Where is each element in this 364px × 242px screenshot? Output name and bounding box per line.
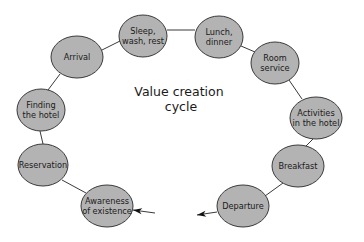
node-label-line: Departure: [222, 201, 264, 211]
node-breakfast: Breakfast: [272, 145, 324, 187]
node-label: Breakfast: [279, 161, 319, 171]
connector-activities-to-breakfast: [306, 139, 313, 146]
diagram-title-line-2: cycle: [165, 99, 198, 114]
node-label-line: in the hotel: [293, 118, 340, 128]
node-label: Reservation: [19, 160, 68, 170]
node-label-line: wash, rest: [122, 36, 165, 46]
node-label-line: Sleep,: [130, 26, 155, 36]
node-label: Awarenessof existence: [82, 196, 132, 216]
diagram-title: Value creation cycle: [134, 84, 227, 114]
node-label-line: Awareness: [85, 196, 129, 206]
connector-breakfast-to-departure: [265, 183, 283, 196]
node-label-line: Activities: [297, 108, 334, 118]
arrows-layer: [133, 208, 217, 216]
connector-lunch-to-room-service: [241, 46, 255, 52]
node-arrival: Arrival: [51, 36, 103, 78]
node-departure: Departure: [217, 185, 269, 227]
value-creation-cycle-diagram: Sleep,wash, restLunch,dinnerArrivalRooms…: [0, 0, 364, 242]
connector-finding-hotel-to-reservation: [40, 131, 43, 144]
node-label: Lunch,dinner: [205, 27, 232, 47]
node-label-line: Arrival: [64, 52, 91, 62]
node-label: Roomservice: [260, 53, 289, 73]
node-label: Findingthe hotel: [23, 100, 60, 120]
node-label-line: Finding: [26, 100, 55, 110]
node-label-line: Breakfast: [279, 161, 319, 171]
connector-reservation-to-awareness: [62, 180, 86, 193]
node-lunch: Lunch,dinner: [195, 16, 243, 58]
node-label: Activitiesin the hotel: [293, 108, 340, 128]
node-room-service: Roomservice: [251, 42, 299, 84]
node-activities: Activitiesin the hotel: [290, 97, 342, 139]
node-label-line: service: [260, 63, 289, 73]
arrow-into-awareness: [133, 208, 155, 214]
connector-arrival-to-finding-hotel: [48, 74, 60, 90]
node-awareness: Awarenessof existence: [81, 185, 133, 227]
node-finding-hotel: Findingthe hotel: [17, 89, 65, 131]
node-label: Arrival: [64, 52, 91, 62]
node-label-line: dinner: [206, 37, 233, 47]
node-sleep: Sleep,wash, rest: [119, 15, 167, 57]
nodes-layer: Sleep,wash, restLunch,dinnerArrivalRooms…: [17, 15, 342, 227]
diagram-title-line-1: Value creation: [134, 84, 223, 99]
node-label-line: Lunch,: [205, 27, 232, 37]
node-label: Departure: [222, 201, 264, 211]
node-label-line: Room: [263, 53, 286, 63]
node-reservation: Reservation: [18, 144, 68, 186]
connector-arrival-to-sleep: [102, 41, 120, 50]
node-label-line: Reservation: [19, 160, 68, 170]
node-label-line: of existence: [82, 206, 132, 216]
diagram-canvas: Sleep,wash, restLunch,dinnerArrivalRooms…: [0, 0, 364, 242]
node-label-line: the hotel: [23, 110, 60, 120]
arrow-out-of-departure: [197, 211, 217, 217]
connector-room-service-to-activities: [289, 80, 302, 99]
